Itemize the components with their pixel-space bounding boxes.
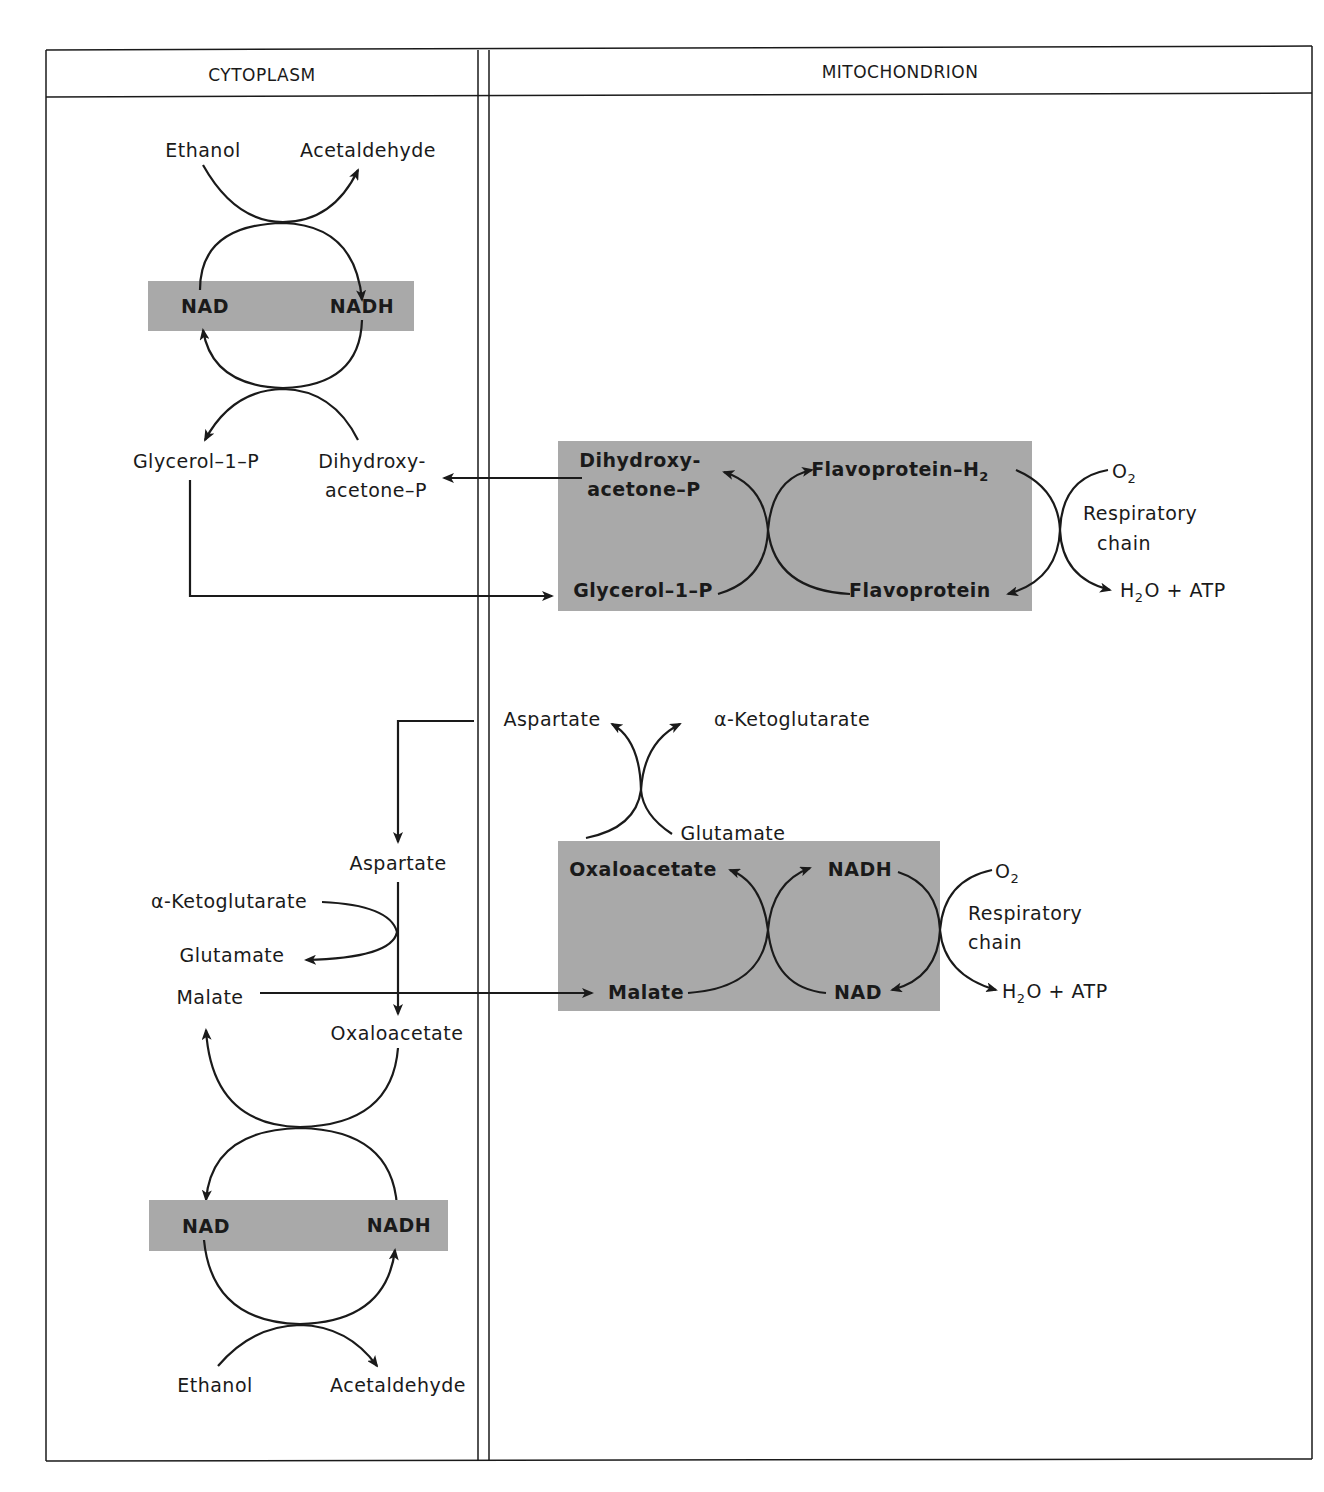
label-o2-malate: O2 <box>995 860 1019 886</box>
label-glutamate-mito: Glutamate <box>681 822 786 844</box>
label-respiratory-chain-2: chain <box>1097 532 1151 554</box>
malate-aspartate-shuttle-mito: Aspartate α-Ketoglutarate Glutamate Oxal… <box>398 708 1108 1011</box>
label-glycerol-1-p-mito: Glycerol–1–P <box>573 579 713 601</box>
label-dihydroxy-cyto-2: acetone–P <box>325 479 427 501</box>
label-h2o-atp-glycerol: H2O + ATP <box>1120 579 1226 605</box>
label-acetaldehyde-top: Acetaldehyde <box>300 139 436 161</box>
label-dihydroxy-mito-2: acetone–P <box>587 478 700 500</box>
label-o2-glycerol: O2 <box>1112 460 1136 486</box>
label-respiratory-chain-malate-1: Respiratory <box>968 902 1082 924</box>
label-aspartate-mito: Aspartate <box>503 708 600 730</box>
malate-aspartate-shuttle-cyto: Aspartate α-Ketoglutarate Glutamate Mala… <box>149 852 592 1396</box>
label-alpha-ketoglutarate-cyto: α-Ketoglutarate <box>151 890 307 912</box>
label-h2o-atp-malate: H2O + ATP <box>1002 980 1108 1006</box>
label-acetaldehyde-bottom: Acetaldehyde <box>330 1374 466 1396</box>
label-dihydroxy-cyto-1: Dihydroxy- <box>318 450 426 472</box>
label-oxaloacetate-cyto: Oxaloacetate <box>331 1022 464 1044</box>
cytoplasm-top-cycle: Ethanol Acetaldehyde NAD NADH Glycerol–1… <box>133 139 436 501</box>
label-flavoprotein: Flavoprotein <box>849 579 991 601</box>
label-respiratory-chain-malate-2: chain <box>968 931 1022 953</box>
shuttle-diagram: CYTOPLASM MITOCHONDRION Ethanol Acetalde… <box>0 0 1324 1492</box>
label-nadh-bottom: NADH <box>367 1214 431 1236</box>
label-dihydroxy-mito-1: Dihydroxy- <box>579 449 701 471</box>
label-alpha-ketoglutarate-mito: α-Ketoglutarate <box>714 708 870 730</box>
label-nadh-mito: NADH <box>828 858 892 880</box>
column-header-cytoplasm: CYTOPLASM <box>208 65 315 85</box>
label-malate-mito: Malate <box>608 981 684 1003</box>
label-nad-top: NAD <box>181 295 229 317</box>
label-ethanol-bottom: Ethanol <box>177 1374 253 1396</box>
column-header-mitochondrion: MITOCHONDRION <box>822 62 979 82</box>
label-malate-cyto: Malate <box>176 986 243 1008</box>
label-nad-bottom: NAD <box>182 1215 230 1237</box>
label-glycerol-1-p-cyto: Glycerol–1–P <box>133 450 259 472</box>
label-nad-mito: NAD <box>834 981 882 1003</box>
label-oxaloacetate-mito: Oxaloacetate <box>569 858 717 880</box>
label-nadh-top: NADH <box>330 295 394 317</box>
label-respiratory-chain-1: Respiratory <box>1083 502 1197 524</box>
label-ethanol-top: Ethanol <box>165 139 241 161</box>
label-glutamate-cyto: Glutamate <box>180 944 285 966</box>
label-aspartate-cyto: Aspartate <box>349 852 446 874</box>
